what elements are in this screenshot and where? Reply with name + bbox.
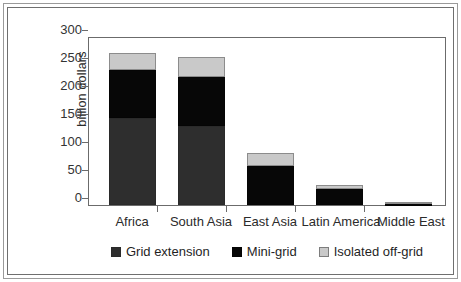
bar-segment-grid-extension	[109, 118, 156, 205]
x-category-label-africa: Africa	[97, 214, 167, 229]
x-tick-mark	[157, 206, 158, 212]
bar-middle-east	[385, 202, 432, 205]
bar-segment-isolated-off-grid	[109, 53, 156, 70]
legend-label-mini-grid: Mini-grid	[247, 244, 297, 259]
x-category-label-middle-east: Middle East	[371, 214, 451, 229]
isolated-off-grid-swatch-icon	[319, 247, 329, 257]
bar-segment-mini-grid	[385, 204, 432, 206]
y-tick-label: 300	[42, 25, 82, 35]
y-tick-label: 150	[42, 109, 82, 119]
bar-segment-mini-grid	[247, 166, 294, 205]
y-tick-label: 50	[42, 165, 82, 175]
y-tick-label: 0	[42, 193, 82, 203]
bar-segment-mini-grid	[109, 70, 156, 118]
x-tick-mark	[364, 206, 365, 212]
legend-item-grid-extension: Grid extension	[111, 244, 210, 259]
bar-east-asia	[247, 153, 294, 205]
y-tick-mark	[82, 30, 88, 31]
bar-segment-mini-grid	[316, 189, 363, 205]
legend-label-grid-extension: Grid extension	[126, 244, 210, 259]
bar-segment-mini-grid	[178, 77, 225, 127]
legend-label-isolated-off-grid: Isolated off-grid	[334, 244, 423, 259]
bar-segment-isolated-off-grid	[247, 153, 294, 165]
y-tick-label: 200	[42, 81, 82, 91]
figure-inner-border: billion dollars 300 250 200 150 100 50 0	[7, 7, 454, 275]
x-category-label-south-asia: South Asia	[165, 214, 237, 229]
legend-item-mini-grid: Mini-grid	[232, 244, 297, 259]
x-category-label-east-asia: East Asia	[234, 214, 306, 229]
x-tick-mark	[295, 206, 296, 212]
plot-area	[88, 37, 446, 206]
bar-africa	[109, 53, 156, 205]
x-tick-mark	[226, 206, 227, 212]
mini-grid-swatch-icon	[232, 247, 242, 257]
bar-latin-america	[316, 185, 363, 205]
grid-extension-swatch-icon	[111, 247, 121, 257]
bar-segment-grid-extension	[178, 126, 225, 205]
y-tick-label: 250	[42, 53, 82, 63]
bar-segment-isolated-off-grid	[178, 57, 225, 76]
bar-south-asia	[178, 57, 225, 205]
chart-figure: billion dollars 300 250 200 150 100 50 0	[0, 0, 461, 282]
legend-item-isolated-off-grid: Isolated off-grid	[319, 244, 423, 259]
chart-legend: Grid extension Mini-grid Isolated off-gr…	[88, 244, 446, 259]
y-tick-label: 100	[42, 137, 82, 147]
y-axis-tick-labels: 300 250 200 150 100 50 0	[40, 8, 82, 248]
